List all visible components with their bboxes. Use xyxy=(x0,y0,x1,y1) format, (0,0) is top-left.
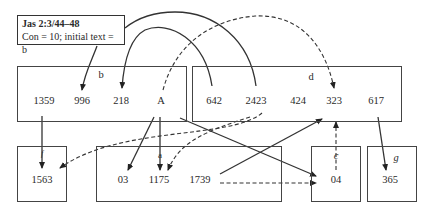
box-d xyxy=(192,66,402,122)
header-box: Jas 2:3/44–48 Con = 10; initial text = b xyxy=(17,15,125,45)
node-04: 04 xyxy=(331,174,342,185)
node-1563: 1563 xyxy=(32,174,53,185)
node-1739: 1739 xyxy=(190,174,211,185)
box-a-label: a xyxy=(158,150,162,160)
node-323: 323 xyxy=(326,95,342,106)
node-1359: 1359 xyxy=(34,95,55,106)
node-218: 218 xyxy=(113,95,129,106)
node-A: A xyxy=(157,95,165,106)
node-2423: 2423 xyxy=(246,95,267,106)
node-03: 03 xyxy=(118,174,129,185)
reference-title: Jas 2:3/44–48 xyxy=(22,17,120,30)
node-365: 365 xyxy=(382,174,398,185)
node-996: 996 xyxy=(74,95,90,106)
node-1175: 1175 xyxy=(149,174,170,185)
node-642: 642 xyxy=(206,95,222,106)
box-b-label: b xyxy=(98,69,103,80)
box-d-label: d xyxy=(308,71,313,82)
box-g-label: g xyxy=(393,152,398,163)
box-c-label: c xyxy=(334,150,339,161)
node-424: 424 xyxy=(290,95,306,106)
header-subtitle: Con = 10; initial text = b xyxy=(22,30,120,56)
box-f-label: f xyxy=(41,149,43,158)
node-617: 617 xyxy=(368,95,384,106)
